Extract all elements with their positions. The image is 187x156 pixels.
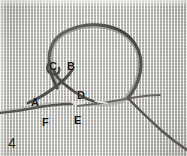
figure-number: 4 <box>8 136 16 150</box>
thread-artwork <box>0 0 187 156</box>
point-label-b: B <box>67 61 75 72</box>
point-label-c: C <box>49 61 57 72</box>
point-label-a: A <box>31 97 39 108</box>
point-label-e: E <box>74 115 81 126</box>
point-label-f: F <box>42 117 49 128</box>
figure-image: A B C D E F 4 <box>0 0 187 156</box>
point-label-d: D <box>77 90 85 101</box>
thread-tail-right <box>128 98 187 150</box>
